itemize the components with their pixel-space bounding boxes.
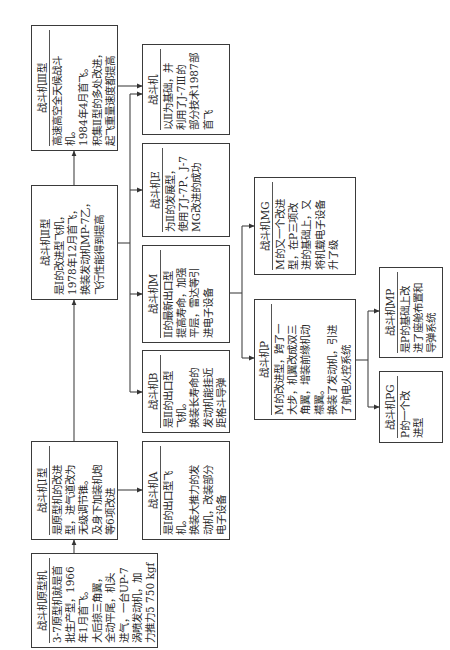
node-e: 战斗机E 为Ⅱ的发展型， 使用了J-7P、J-7 MG改进的成功 <box>142 143 230 237</box>
node-title: 战斗机MP <box>384 272 398 353</box>
node-line: 进型 <box>412 376 425 438</box>
node-mg: 战斗机MG M的又一个改进 型，在P三项改 进的基础上，又 将机载电子设备 升了… <box>254 177 356 275</box>
node-pg: 战斗机PG P的一个改 进型 <box>379 371 443 443</box>
node-title: 战斗机A <box>147 446 161 535</box>
node-line: 发动机能挂近 <box>202 355 215 428</box>
node-line: MG改进的成功 <box>190 148 203 232</box>
node-line: 积集Ⅱ型的多处改进， <box>91 30 104 146</box>
node-line: 年1月首飞。 <box>77 558 90 643</box>
node-line: 换装长寿命的 <box>188 355 201 428</box>
node-line: 提高寿命，加强 <box>175 250 188 338</box>
node-title: 战斗机Ⅰ型 <box>36 446 50 535</box>
node-line: 是P的基础上改 <box>399 272 412 353</box>
node-title: 战斗机P <box>258 304 272 415</box>
node-line: 以Ⅱ为基础，并 <box>162 49 175 130</box>
node-title: 战斗机B <box>147 355 161 428</box>
node-line: 机。 <box>175 446 188 535</box>
node-type2: 战斗机Ⅱ型 是Ⅰ的改进型飞机， 1978年12月首飞， 换装发动机MP-7乙， … <box>31 185 118 300</box>
node-line: 了航电火控系统 <box>340 304 353 415</box>
node-line: 角翼，增装前缘机动 <box>299 304 312 415</box>
node-line: 首飞 <box>202 49 215 130</box>
node-line: 高速高空全天候战斗 <box>51 30 64 146</box>
node-line: 导弹系统 <box>425 272 438 353</box>
node-line: 换装大推力的发 <box>188 446 201 535</box>
node-b: 战斗机B 是Ⅱ的出口型 飞机。 换装长寿命的 发动机能挂近 距格斗导弹 <box>142 350 230 433</box>
node-title: 战斗机MG <box>259 182 273 270</box>
node-line: 动机，改装部分 <box>202 446 215 535</box>
node-p: 战斗机P M的改进型，跨了一 大步，机翼改成双三 角翼，增装前缘机动 襟翼。 换… <box>254 299 356 420</box>
node-line: 进了座舱布置和 <box>412 272 425 353</box>
node-mp: 战斗机MP 是P的基础上改 进了座舱布置和 导弹系统 <box>379 267 443 358</box>
node-line: 及身下加装机炮 <box>91 446 104 535</box>
node-line: Ⅱ的最新出口型 <box>162 250 175 338</box>
node-title: 战斗机Ⅲ型 <box>36 30 50 146</box>
node-a: 战斗机A 是Ⅰ的出口型飞 机。 换装大推力的发 动机，改装部分 电子设备 <box>142 441 230 540</box>
node-line: 起飞重量速度都提高 <box>104 30 117 146</box>
node-line: 襟翼。 <box>313 304 326 415</box>
node-line: 批生产型，1966 <box>64 558 77 643</box>
node-line: 是Ⅱ的出口型 <box>162 355 175 428</box>
node-type1: 战斗机Ⅰ型 是原型机的改进 型，进气道改为 无级调节锥。 及身下加装机炮 等6项… <box>31 441 118 540</box>
node-line: 部分技术1987部 <box>188 49 201 130</box>
node-type2-base: 战斗机 以Ⅱ为基础，并 利用了J-7Ⅲ的 部分技术1987部 首飞 <box>142 44 230 135</box>
node-line: 1984年4月首飞。 <box>77 30 90 146</box>
node-line: M的又一个改进 <box>274 182 287 270</box>
node-line: 电子设备 <box>215 446 228 535</box>
node-line: 距格斗导弹 <box>215 355 228 428</box>
node-line: 是Ⅰ的出口型飞 <box>162 446 175 535</box>
node-line: 型，进气道改为 <box>64 446 77 535</box>
node-line: 大后掠三角翼， <box>91 558 104 643</box>
node-line: 进的基础上，又 <box>300 182 313 270</box>
node-line: 换装发动机MP-7乙， <box>79 190 92 295</box>
node-line: M的改进型，跨了一 <box>273 304 286 415</box>
node-line: 进电子设备 <box>202 250 215 338</box>
node-line: 升了级 <box>327 182 340 270</box>
fighter-evolution-diagram: 战斗机原型机 3-7原型机就是首 批生产型，1966 年1月首飞。 大后掠三角翼… <box>0 0 450 650</box>
node-line: 是原型机的改进 <box>51 446 64 535</box>
node-line: 机。 <box>64 30 77 146</box>
node-line: 大步，机翼改成双三 <box>286 304 299 415</box>
node-title: 战斗机E <box>149 148 163 232</box>
node-type3: 战斗机Ⅲ型 高速高空全天候战斗 机。 1984年4月首飞。 积集Ⅱ型的多处改进，… <box>31 25 118 151</box>
node-m: 战斗机M Ⅱ的最新出口型 提高寿命，加强 平层，雷达等引 进电子设备 <box>142 245 230 343</box>
node-line: 利用了J-7Ⅲ的 <box>175 49 188 130</box>
node-prototype: 战斗机原型机 3-7原型机就是首 批生产型，1966 年1月首飞。 大后掠三角翼… <box>31 553 158 648</box>
node-line: 涡喷发动机，加 <box>131 558 144 643</box>
node-line: 3-7原型机就是首 <box>51 558 64 643</box>
node-line: 是Ⅰ的改进型飞机， <box>53 190 66 295</box>
node-title: 战斗机PG <box>384 376 398 438</box>
node-line: 飞行性能得到提高 <box>93 190 106 295</box>
node-line: 平层，雷达等引 <box>188 250 201 338</box>
node-title: 战斗机原型机 <box>36 558 50 643</box>
node-title: 战斗机Ⅱ型 <box>39 190 52 295</box>
node-line: 无级调节锥。 <box>77 446 90 535</box>
node-line: 将机载电子设备 <box>314 182 327 270</box>
node-title: 战斗机 <box>147 49 161 130</box>
node-line: 力推力5 750 kgf <box>144 558 157 643</box>
node-line: 使用了J-7P、J-7 <box>177 148 190 232</box>
node-line: P的一个改 <box>399 376 412 438</box>
node-line: 为Ⅱ的发展型， <box>164 148 177 232</box>
node-line: 进气，一台UP-7 <box>118 558 131 643</box>
node-line: 1978年12月首飞， <box>66 190 79 295</box>
node-line: 换装了发动机，引进 <box>326 304 339 415</box>
node-title: 战斗机M <box>147 250 161 338</box>
node-line: 型，在P三项改 <box>287 182 300 270</box>
node-line: 全动平尾，机头 <box>104 558 117 643</box>
node-line: 飞机。 <box>175 355 188 428</box>
node-line: 等6项改进 <box>104 446 117 535</box>
